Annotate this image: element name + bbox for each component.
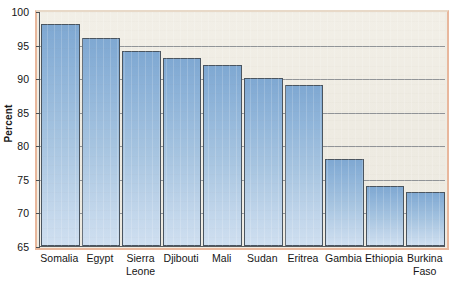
bar bbox=[41, 24, 80, 246]
bars-layer bbox=[40, 12, 445, 246]
axis-tick bbox=[36, 247, 40, 248]
x-axis-tick-label: BurkinaFaso bbox=[398, 252, 451, 278]
y-axis-tick-labels: 10095908580757065 bbox=[0, 0, 33, 291]
bar bbox=[122, 51, 161, 246]
bar bbox=[163, 58, 202, 246]
bar-chart: Percent 10095908580757065 SomaliaEgyptSi… bbox=[0, 0, 453, 291]
bar bbox=[366, 186, 405, 246]
y-axis-tick-label: 100 bbox=[0, 7, 29, 18]
bar bbox=[203, 65, 242, 246]
y-axis-tick-label: 75 bbox=[0, 175, 29, 186]
y-axis-tick-label: 65 bbox=[0, 242, 29, 253]
bar bbox=[82, 38, 121, 246]
y-axis-tick-label: 95 bbox=[0, 41, 29, 52]
y-axis-tick-label: 80 bbox=[0, 141, 29, 152]
bar bbox=[406, 192, 445, 246]
y-axis-tick-label: 70 bbox=[0, 208, 29, 219]
plot-area bbox=[39, 12, 445, 247]
y-axis-tick-label: 85 bbox=[0, 108, 29, 119]
y-axis-tick-label: 90 bbox=[0, 74, 29, 85]
bar bbox=[325, 159, 364, 246]
bar bbox=[244, 78, 283, 246]
x-axis-tick-labels: SomaliaEgyptSierraLeoneDjiboutiMaliSudan… bbox=[39, 252, 445, 291]
bar bbox=[285, 85, 324, 246]
